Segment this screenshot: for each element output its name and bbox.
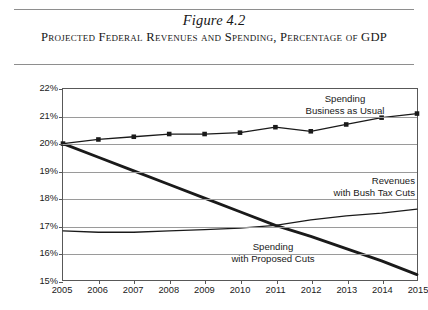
x-axis-tickmark [312,280,313,284]
x-axis-tickmark [241,280,242,284]
x-axis-tick-label: 2005 [52,285,73,295]
x-axis-tick-label: 2006 [87,285,108,295]
y-axis-tickmark [59,144,63,145]
y-axis-tickmark [59,172,63,173]
series-line [63,114,417,144]
x-axis-tickmark [99,280,100,284]
gridline [63,117,417,118]
x-axis-tickmark [348,280,349,284]
gridline [63,144,417,145]
x-axis-tick-label: 2012 [301,285,322,295]
series-marker [132,134,137,139]
x-axis-tickmark [383,280,384,284]
y-axis-tick-label: 17% [24,221,58,231]
x-axis-tick-label: 2007 [123,285,144,295]
y-axis-tick-label: 20% [24,138,58,148]
series-annotation: Revenueswith Bush Tax Cuts [299,175,415,198]
x-axis-tickmark [134,280,135,284]
y-axis-tick-label: 16% [24,248,58,258]
series-marker [273,125,278,130]
gridline [63,199,417,200]
title-rule-top [14,9,414,10]
series-marker [167,132,172,137]
series-marker [238,130,243,135]
series-annotation-line: Spending [285,93,405,105]
y-axis-tick-label: 19% [24,166,58,176]
x-axis-tick-label: 2010 [230,285,251,295]
x-axis-tick-label: 2009 [194,285,215,295]
title-block: Figure 4.2 Projected Federal Revenues an… [14,12,414,45]
y-axis-tick-label: 22% [24,83,58,93]
y-axis-tick-label: 21% [24,111,58,121]
series-marker [309,129,314,134]
figure-container: Figure 4.2 Projected Federal Revenues an… [0,0,428,310]
series-marker [202,132,207,137]
y-axis-tickmark [59,199,63,200]
y-axis-tickmark [59,227,63,228]
x-axis-tick-label: 2014 [372,285,393,295]
series-marker [96,137,101,142]
x-axis-tick-label: 2013 [336,285,357,295]
y-axis-tickmark [59,254,63,255]
y-axis-tickmark [59,117,63,118]
title-rule-bottom [14,64,414,65]
x-axis-tick-label: 2015 [408,285,428,295]
gridline [63,227,417,228]
x-axis-tickmark [277,280,278,284]
figure-caption: Projected Federal Revenues and Spending,… [14,30,414,45]
chart-area: Percentage of GDP SpendingBusiness as Us… [20,72,420,300]
series-annotation-line: with Bush Tax Cuts [299,187,415,199]
x-axis-tickmark [170,280,171,284]
series-annotation: Spendingwith Proposed Cuts [213,241,333,264]
series-annotation-line: Business as Usual [285,105,405,117]
series-annotation-line: Spending [213,241,333,253]
series-marker [344,122,349,127]
y-axis-tickmark [59,89,63,90]
gridline [63,172,417,173]
y-axis-tickmark [59,282,63,283]
series-annotation-line: Revenues [299,175,415,187]
y-axis-tick-label: 18% [24,193,58,203]
series-annotation-line: with Proposed Cuts [213,253,333,265]
x-axis-tickmark [205,280,206,284]
series-marker [415,111,420,116]
x-axis-tick-label: 2008 [158,285,179,295]
series-annotation: SpendingBusiness as Usual [285,93,405,116]
figure-number: Figure 4.2 [14,12,414,29]
x-axis-tick-label: 2011 [266,285,286,295]
plot-frame: SpendingBusiness as UsualRevenueswith Bu… [62,88,418,281]
